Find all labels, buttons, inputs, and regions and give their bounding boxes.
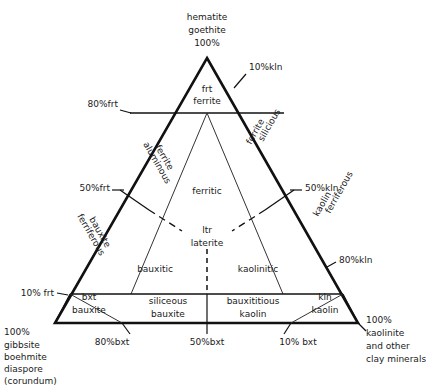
field-label-siliceous-bauxite-1: siliceous — [149, 296, 188, 307]
field-label-bauxititious-kaolin-2: kaolin — [240, 309, 267, 320]
boundary-50frt-dashed — [149, 210, 182, 231]
tick-label-80frt: 80%frt — [88, 99, 118, 110]
field-label-ltr-name: laterite — [191, 238, 223, 249]
field-label-frt-name: ferrite — [193, 96, 221, 107]
bottom-right-label-clay-minerals: clay minerals — [366, 354, 426, 365]
tick-label-10bxt: 10% bxt — [279, 337, 316, 348]
tick-80kln — [327, 262, 336, 267]
bottom-right-label-percent: 100% — [366, 315, 392, 326]
apex-label-hematite: hematite — [187, 12, 228, 23]
tick-label-10frt: 10% frt — [21, 288, 54, 299]
field-label-ferritic: ferritic — [192, 186, 221, 197]
bottom-right-label-and-other: and other — [366, 341, 410, 352]
tick-10kln — [234, 74, 246, 88]
field-label-bauxititious-kaolin-1: bauxititious — [227, 296, 280, 307]
bxt-field-apex-line — [55, 294, 70, 323]
tick-label-10kln: 10%kln — [249, 62, 282, 73]
tick-80bxt — [122, 323, 130, 334]
ternary-diagram: hematite goethite 100% 100% gibbsite boe… — [0, 0, 426, 387]
boundary-50kln-solid — [265, 190, 294, 210]
tick-label-50bxt: 50%bxt — [190, 337, 225, 348]
tick-10frt — [57, 293, 68, 295]
bottom-left-label-gibbsite: gibbsite — [4, 340, 40, 351]
bottom-left-label-corundum: (corundum) — [4, 376, 57, 387]
field-label-siliceous-bauxite-2: bauxite — [151, 309, 185, 320]
field-label-kaolinitic: kaolinitic — [238, 264, 278, 275]
field-label-bauxitic: bauxitic — [137, 264, 173, 275]
bottom-left-label-percent: 100% — [4, 327, 30, 338]
tick-label-80bxt: 80%bxt — [95, 337, 130, 348]
field-label-ltr-abbr: ltr — [202, 225, 212, 236]
field-label-bxt-abbr: bxt — [82, 292, 97, 303]
field-label-bxt-name: bauxite — [72, 305, 106, 316]
field-label-kln-abbr: kln — [318, 292, 331, 303]
field-label-kln-name: kaolin — [312, 305, 339, 316]
tick-10bxt — [284, 323, 291, 334]
bottom-right-label-kaolinite: kaolinite — [366, 328, 404, 339]
kln-field-apex-line — [343, 294, 358, 323]
tick-label-80kln: 80%kln — [339, 255, 372, 266]
apex-label-percent: 100% — [194, 38, 220, 49]
tick-100kln — [358, 323, 366, 331]
field-label-frt-abbr: frt — [202, 84, 212, 95]
bottom-left-label-diaspore: diaspore — [4, 364, 43, 375]
tick-label-50frt: 50%frt — [80, 183, 110, 194]
boundary-50kln-dashed — [232, 210, 265, 231]
tick-80frt — [120, 110, 131, 113]
apex-label-goethite: goethite — [188, 25, 226, 36]
bottom-left-label-boehmite: boehmite — [4, 352, 47, 363]
